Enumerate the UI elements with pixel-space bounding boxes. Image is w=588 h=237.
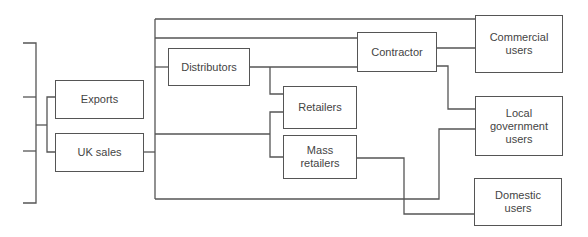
- node-label-line-3: users: [506, 133, 533, 146]
- node-label-line-1: Mass: [307, 144, 333, 157]
- node-label: Contractor: [371, 46, 422, 59]
- node-label-line-2: users: [505, 202, 532, 215]
- node-label: UK sales: [77, 146, 121, 159]
- node-uk-sales: UK sales: [55, 133, 144, 172]
- node-label-line-2: government: [490, 120, 548, 133]
- node-retailers: Retailers: [283, 86, 357, 129]
- node-label-line-1: Domestic: [495, 189, 541, 202]
- node-exports: Exports: [55, 80, 144, 119]
- node-label-line-2: users: [506, 44, 533, 57]
- node-distributors: Distributors: [168, 48, 250, 86]
- node-mass-retailers: Mass retailers: [283, 135, 357, 179]
- node-domestic-users: Domestic users: [474, 178, 562, 226]
- node-label-line-1: Commercial: [490, 31, 549, 44]
- node-label-line-1: Local: [506, 107, 532, 120]
- node-label: Exports: [81, 93, 118, 106]
- node-label-line-2: retailers: [300, 157, 339, 170]
- node-contractor: Contractor: [357, 32, 437, 72]
- node-label: Retailers: [298, 101, 341, 114]
- node-label: Distributors: [181, 61, 237, 74]
- node-commercial-users: Commercial users: [475, 15, 563, 73]
- node-local-government-users: Local government users: [475, 96, 563, 156]
